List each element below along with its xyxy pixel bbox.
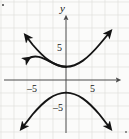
axes (4, 17, 119, 133)
grid-lines (0, 0, 129, 139)
x-tick-label-minus-5: –5 (27, 84, 37, 94)
hyperbola-figure: y 5 –5 –5 5 (0, 0, 129, 139)
graph-canvas (0, 0, 129, 139)
upper-branch-right-arm (66, 32, 110, 67)
y-tick-label-5: 5 (57, 43, 62, 53)
lower-branch-right-arm (66, 93, 110, 128)
y-tick-label-minus-5: –5 (53, 103, 63, 113)
y-axis-label: y (60, 3, 65, 14)
x-tick-label-5: 5 (90, 84, 95, 94)
